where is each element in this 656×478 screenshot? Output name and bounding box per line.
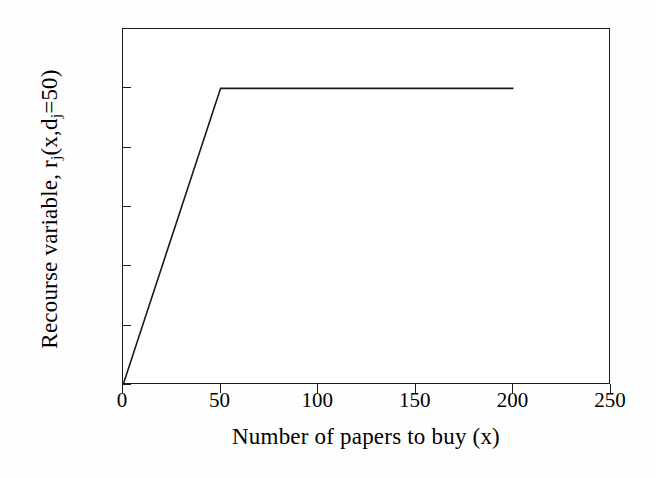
x-axis-title: Number of papers to buy (x) <box>122 424 610 450</box>
x-axis-tick-label-text: 0 <box>117 390 128 411</box>
y-axis-title-subscript-1: j <box>47 156 64 161</box>
y-axis-title: Recourse variable, rj(x,dj=50) <box>37 9 63 409</box>
y-axis-title-lead: Recourse variable, r <box>37 160 62 349</box>
chart-figure: 0102030405060 050100150200250 Number of … <box>0 0 656 478</box>
x-axis-tick-label-text: 250 <box>594 390 626 411</box>
x-axis-tick-label-text: 100 <box>301 390 333 411</box>
y-axis-tick-mark <box>122 384 131 385</box>
y-axis-tick-mark <box>122 28 131 29</box>
data-series-line <box>123 88 513 385</box>
y-axis-title-subscript-2: j <box>47 114 64 119</box>
y-axis-tick-mark <box>122 87 131 88</box>
x-axis-tick-label-text: 200 <box>497 390 529 411</box>
x-axis-tick-label-text: 50 <box>209 390 230 411</box>
y-axis-tick-mark <box>122 265 131 266</box>
y-axis-title-tail: =50) <box>37 69 62 113</box>
y-axis-tick-mark <box>122 325 131 326</box>
plot-area <box>122 28 610 384</box>
data-line-canvas <box>123 29 611 385</box>
y-axis-tick-mark <box>122 206 131 207</box>
x-axis-tick-label-text: 150 <box>399 390 431 411</box>
y-axis-title-mid: (x,d <box>37 118 62 155</box>
y-axis-tick-mark <box>122 147 131 148</box>
